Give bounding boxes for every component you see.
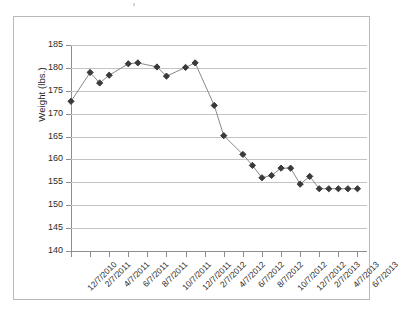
data-point-marker <box>182 64 188 70</box>
series-markers <box>68 60 361 192</box>
chart-frame: Weight (lbs.) 14014515015516016517017518… <box>13 16 370 300</box>
series-line <box>71 63 357 189</box>
x-axis-tick <box>147 252 148 257</box>
data-point-marker <box>288 165 294 171</box>
data-point-marker <box>345 186 351 192</box>
x-axis-tick <box>281 252 282 257</box>
data-point-marker <box>68 98 74 104</box>
y-axis-tick-label: 175 <box>23 86 63 95</box>
x-axis-tick <box>71 252 72 257</box>
x-axis-tick <box>109 252 110 257</box>
data-point-marker <box>326 186 332 192</box>
y-axis-tick-label: 140 <box>23 246 63 255</box>
y-axis-tick-label: 165 <box>23 132 63 141</box>
x-axis-tick <box>166 252 167 257</box>
x-axis-tick <box>300 252 301 257</box>
plot-area <box>71 45 367 251</box>
y-axis-tick-label: 185 <box>23 40 63 49</box>
data-point-marker <box>211 102 217 108</box>
series-weight <box>71 45 367 251</box>
y-axis-tick-label: 170 <box>23 109 63 118</box>
x-axis-tick <box>243 252 244 257</box>
data-point-marker <box>354 186 360 192</box>
x-axis-tick <box>90 252 91 257</box>
x-axis-tick <box>262 252 263 257</box>
data-point-marker <box>135 60 141 66</box>
x-axis-tick <box>319 252 320 257</box>
scan-artifact-speck <box>133 3 135 6</box>
data-point-marker <box>192 60 198 66</box>
x-axis-tick <box>205 252 206 257</box>
y-axis-tick-label: 155 <box>23 177 63 186</box>
x-axis-tick <box>224 252 225 257</box>
x-axis-tick <box>338 252 339 257</box>
x-axis-tick <box>186 252 187 257</box>
data-point-marker <box>335 186 341 192</box>
gridline <box>71 251 367 252</box>
y-axis-labels: 140145150155160165170175180185 <box>14 17 63 299</box>
data-point-marker <box>125 61 131 67</box>
y-axis-tick-label: 145 <box>23 223 63 232</box>
y-axis-tick-label: 150 <box>23 200 63 209</box>
y-axis-tick-label: 180 <box>23 63 63 72</box>
x-axis-tick <box>128 252 129 257</box>
y-axis-tick-label: 160 <box>23 154 63 163</box>
x-axis-tick <box>357 252 358 257</box>
